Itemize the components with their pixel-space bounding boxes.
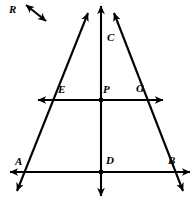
point-label-C: C — [107, 32, 114, 43]
point-label-D: D — [106, 155, 114, 166]
point-label-R: R — [9, 4, 16, 15]
point-label-A: A — [15, 156, 22, 167]
line-AC — [17, 13, 88, 191]
line-R-pointer — [26, 5, 46, 21]
dot-P — [99, 98, 104, 103]
dot-D — [99, 170, 104, 175]
point-label-B: B — [168, 155, 175, 166]
point-label-P: P — [103, 84, 110, 95]
point-label-G: G — [136, 83, 144, 94]
geometry-diagram: R C E P G A D B — [0, 0, 192, 203]
point-label-E: E — [58, 84, 65, 95]
diagram-canvas — [0, 0, 192, 203]
